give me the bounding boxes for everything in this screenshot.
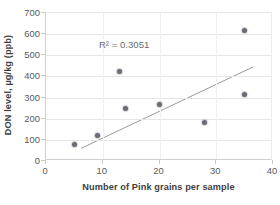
- y-axis-tick-label: 700: [24, 7, 40, 18]
- x-axis-title: Number of Pink grains per sample: [45, 182, 272, 192]
- data-point: [242, 92, 247, 97]
- x-axis-tick-label: 30: [210, 165, 220, 176]
- data-point: [117, 69, 122, 74]
- x-axis-tick-label: 0: [42, 165, 47, 176]
- gridline-horizontal: [46, 98, 271, 99]
- y-axis-title-label: DON level, µg/kg (ppb): [3, 35, 13, 135]
- x-axis-tick-mark: [45, 160, 46, 164]
- y-axis-tick-labels: 0100200300400500600700: [16, 12, 43, 160]
- gridline-vertical: [216, 13, 217, 159]
- y-axis-title: DON level, µg/kg (ppb): [0, 0, 16, 170]
- y-axis-tick-label: 600: [24, 28, 40, 39]
- y-axis-tick-label: 0: [35, 155, 40, 166]
- gridline-horizontal: [46, 76, 271, 77]
- data-point: [123, 106, 128, 111]
- gridline-horizontal: [46, 140, 271, 141]
- gridline-horizontal: [46, 55, 271, 56]
- gridline-horizontal: [46, 34, 271, 35]
- gridline-vertical: [160, 13, 161, 159]
- x-axis-tick-mark: [159, 160, 160, 164]
- gridline-horizontal: [46, 119, 271, 120]
- y-axis-tick-label: 400: [24, 70, 40, 81]
- y-axis-tick-label: 200: [24, 112, 40, 123]
- plot-area: [45, 12, 272, 160]
- y-axis-tick-label: 100: [24, 133, 40, 144]
- x-axis-tick-label: 10: [97, 165, 107, 176]
- x-axis-tick-marks: [45, 160, 272, 164]
- data-point: [72, 142, 77, 147]
- x-axis-tick-mark: [272, 160, 273, 164]
- gridline-vertical: [103, 13, 104, 159]
- y-axis-tick-label: 300: [24, 91, 40, 102]
- x-axis-tick-mark: [102, 160, 103, 164]
- data-point: [95, 133, 100, 138]
- y-axis-tick-label: 500: [24, 49, 40, 60]
- r-squared-annotation: R² = 0.3051: [99, 39, 149, 50]
- x-axis-tick-labels: 010203040: [45, 165, 272, 179]
- x-axis-tick-mark: [215, 160, 216, 164]
- x-axis-tick-label: 20: [153, 165, 163, 176]
- x-axis-tick-label: 40: [267, 165, 277, 176]
- scatter-chart: DON level, µg/kg (ppb) 01002003004005006…: [0, 0, 280, 205]
